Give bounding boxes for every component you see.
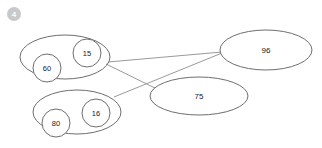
- tree-diagram-canvas: 60 15 80 16 96 75 4: [0, 0, 322, 148]
- node-label-60: 60: [43, 64, 51, 73]
- step-badge-label: 4: [12, 10, 17, 19]
- node-label-16: 16: [92, 109, 100, 118]
- node-label-96: 96: [262, 46, 271, 55]
- node-label-75: 75: [195, 92, 204, 101]
- connector-topleft-to-75: [106, 64, 157, 89]
- node-label-80: 80: [52, 119, 60, 128]
- node-label-15: 15: [83, 49, 91, 58]
